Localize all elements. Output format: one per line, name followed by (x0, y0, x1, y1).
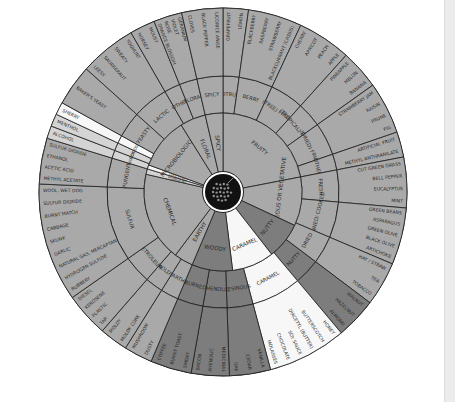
descriptor-label: EUCALYPTUS (374, 186, 403, 192)
scrollbar-track[interactable] (444, 0, 455, 402)
aroma-wheel-svg: CITRUSGRAPEFRUITLEMONBERRYBLACKBERRYRASP… (0, 0, 445, 402)
descriptor-label: WOOL, WET DOG (43, 188, 83, 193)
aroma-wheel: CITRUSGRAPEFRUITLEMONBERRYBLACKBERRYRASP… (0, 0, 445, 402)
descriptor-label: MINT (391, 198, 403, 204)
descriptor-label: GRAPEFRUIT (226, 12, 232, 41)
descriptor-label: OAK (233, 362, 239, 373)
descriptor-label: MEDICINAL (221, 347, 226, 373)
